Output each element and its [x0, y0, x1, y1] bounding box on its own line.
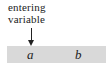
- label-line-1: entering: [8, 1, 46, 13]
- variable-b: b: [75, 47, 82, 62]
- entering-variable-label: entering variable: [8, 1, 46, 25]
- variable-bar: [7, 46, 106, 63]
- variable-a: a: [27, 47, 34, 62]
- label-line-2: variable: [8, 13, 46, 25]
